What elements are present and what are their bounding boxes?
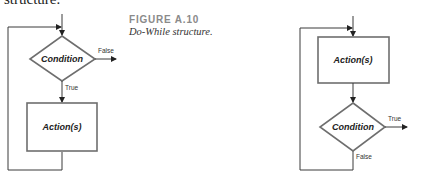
right-condition-label: Condition	[332, 122, 374, 132]
right-action-label: Action(s)	[333, 55, 373, 65]
left-true-label: True	[65, 84, 79, 91]
left-false-label: False	[98, 47, 114, 54]
right-false-label: False	[356, 153, 372, 160]
left-action-label: Action(s)	[42, 122, 82, 132]
flowchart-canvas: Condition False True Action(s) Action(s)…	[0, 0, 430, 176]
right-true-label: True	[388, 115, 402, 122]
left-while-diagram: Condition False True Action(s)	[8, 14, 116, 170]
right-do-while-diagram: Action(s) Condition True False	[300, 16, 407, 170]
left-condition-label: Condition	[41, 54, 83, 64]
